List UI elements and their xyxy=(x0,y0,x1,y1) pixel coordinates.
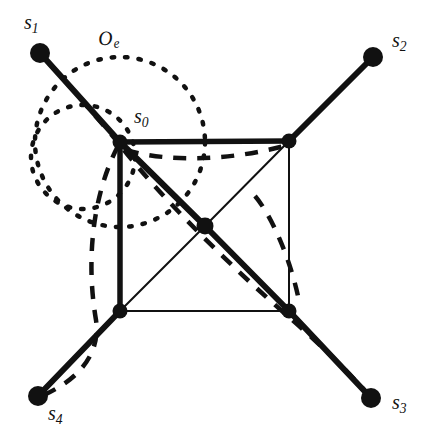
edge-thick-s3-bottom-right-corner xyxy=(289,311,371,398)
edge-thick-s2-top-right-corner xyxy=(289,57,373,141)
edge-thin-bottom-left-corner-center xyxy=(120,226,205,311)
region-label-Oe: Oe xyxy=(97,27,120,53)
edge-thick-s0-top-right-corner xyxy=(120,141,289,142)
vertex-bottom-left-corner xyxy=(113,304,128,319)
vertex-s3 xyxy=(361,388,381,408)
edge-thick-s1-s0 xyxy=(40,53,120,142)
vertex-top-right-corner xyxy=(282,134,297,149)
diagram-svg xyxy=(0,0,446,445)
vertex-label-s4: s4 xyxy=(48,403,63,426)
vertex-center xyxy=(197,218,214,235)
dashed-arc-top-edge xyxy=(126,146,284,158)
vertex-s1 xyxy=(30,43,50,63)
vertex-s4 xyxy=(28,386,48,406)
vertex-label-s3: s3 xyxy=(392,392,407,415)
figure-canvas: s1 s2 s3 s4 s0 Oe xyxy=(0,0,446,445)
dashed-arc-inner-right xyxy=(255,196,300,306)
vertex-label-s0: s0 xyxy=(134,106,149,129)
edge-thick-s4-bottom-left-corner xyxy=(38,311,120,396)
vertex-label-s2: s2 xyxy=(392,30,407,53)
edge-thick-center-bottom-right-corner xyxy=(205,226,289,311)
vertex-s2 xyxy=(363,47,383,67)
vertex-bottom-right-corner xyxy=(282,304,297,319)
dashed-arc-left-loop xyxy=(46,146,118,394)
vertex-label-s1: s1 xyxy=(24,12,39,35)
vertex-s0 xyxy=(113,135,128,150)
